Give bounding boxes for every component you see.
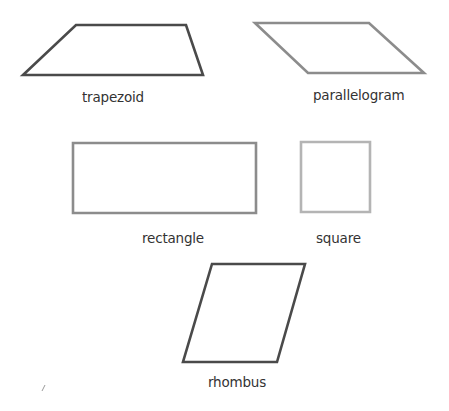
shapes-canvas <box>0 0 449 411</box>
rectangle-shape <box>73 143 256 213</box>
rhombus-shape <box>183 264 305 362</box>
rhombus-label: rhombus <box>208 376 266 390</box>
parallelogram-shape <box>255 23 424 73</box>
parallelogram-label: parallelogram <box>313 89 404 103</box>
square-label: square <box>316 232 361 246</box>
rectangle-label: rectangle <box>142 232 204 246</box>
square-shape <box>301 142 370 212</box>
trapezoid-shape <box>23 25 203 75</box>
noise-mark <box>42 385 45 391</box>
trapezoid-label: trapezoid <box>82 91 144 105</box>
